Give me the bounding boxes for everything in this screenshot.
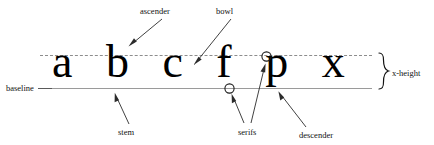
x-height-brace: [379, 53, 389, 89]
label-baseline: baseline: [6, 83, 34, 93]
label-x-height: x-height: [392, 68, 420, 78]
letter-specimen: a b c f p x: [52, 36, 352, 106]
label-ascender: ascender: [140, 6, 170, 16]
typography-anatomy-diagram: a b c f p x: [0, 0, 434, 145]
label-serifs: serifs: [238, 127, 256, 137]
label-stem: stem: [118, 127, 134, 137]
label-bowl: bowl: [216, 6, 233, 16]
label-descender: descender: [299, 130, 333, 140]
baseline-leader-line: [38, 88, 52, 89]
